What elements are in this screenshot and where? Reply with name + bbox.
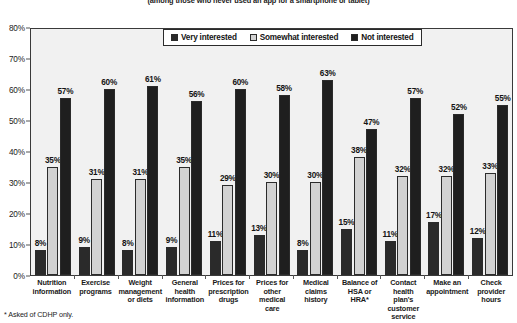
bar[interactable] — [410, 98, 421, 275]
bar-group: 9%31%60% — [75, 29, 119, 275]
bar-slot: 31% — [135, 29, 146, 275]
bar-slot: 52% — [453, 29, 464, 275]
bar-value-label: 57% — [407, 87, 423, 96]
bar[interactable] — [485, 173, 496, 275]
x-axis-label-line: hours — [470, 296, 512, 305]
legend-item[interactable]: Very interested — [171, 33, 237, 42]
legend-label: Very interested — [181, 33, 237, 42]
y-axis: 0%10%20%30%40%50%60%70%80% — [0, 28, 30, 276]
bar[interactable] — [354, 157, 365, 275]
bar-value-label: 31% — [89, 168, 105, 177]
bar-slot: 8% — [35, 29, 46, 275]
bar-value-label: 15% — [339, 218, 355, 227]
bar-value-label: 8% — [35, 239, 46, 248]
legend-item[interactable]: Not interested — [351, 33, 413, 42]
bar[interactable] — [179, 167, 190, 276]
bar-value-label: 35% — [176, 156, 192, 165]
bar[interactable] — [47, 167, 58, 276]
bar-slot: 13% — [254, 29, 265, 275]
legend-label: Not interested — [361, 33, 413, 42]
bar[interactable] — [235, 89, 246, 275]
bar-value-label: 47% — [364, 118, 380, 127]
bar-value-label: 31% — [132, 168, 148, 177]
bar-slot: 9% — [166, 29, 177, 275]
bar[interactable] — [191, 101, 202, 275]
bar[interactable] — [60, 98, 71, 275]
bar-value-label: 55% — [495, 94, 511, 103]
bar[interactable] — [135, 179, 146, 275]
bar[interactable] — [166, 247, 177, 275]
x-axis-label-line: appointment — [426, 288, 468, 297]
bar-value-label: 32% — [395, 165, 411, 174]
x-axis-labels: NutritioninformationExerciseprogramsWeig… — [30, 279, 513, 322]
bar[interactable] — [91, 179, 102, 275]
bar-slot: 8% — [122, 29, 133, 275]
x-axis-label-line: information — [31, 288, 73, 297]
bar[interactable] — [254, 235, 265, 275]
bar[interactable] — [210, 241, 221, 275]
bar-value-label: 60% — [101, 78, 117, 87]
bar[interactable] — [397, 176, 408, 275]
bar-group: 11%32%57% — [381, 29, 425, 275]
bar-value-label: 17% — [426, 211, 442, 220]
bar-value-label: 8% — [297, 239, 308, 248]
y-tick-label: 10% — [9, 241, 25, 250]
legend-item[interactable]: Somewhat interested — [250, 33, 339, 42]
bar-slot: 57% — [410, 29, 421, 275]
bar-value-label: 32% — [439, 165, 455, 174]
x-axis-label-line: information — [164, 296, 206, 305]
x-axis-label-line: health plan's — [382, 288, 424, 305]
bar-slot: 12% — [472, 29, 483, 275]
bar[interactable] — [472, 238, 483, 275]
bar[interactable] — [385, 241, 396, 275]
bar[interactable] — [35, 250, 46, 275]
bar[interactable] — [266, 182, 277, 275]
bar-group: 8%31%61% — [118, 29, 162, 275]
bar-slot: 60% — [104, 29, 115, 275]
bar-value-label: 11% — [208, 230, 223, 239]
x-axis-label: Weightmanagementor diets — [117, 279, 163, 322]
bar[interactable] — [122, 250, 133, 275]
y-tick-label: 60% — [9, 86, 25, 95]
bar[interactable] — [310, 182, 321, 275]
bar[interactable] — [453, 114, 464, 275]
chart-subtitle: (among those who never used an app for a… — [0, 0, 517, 5]
bar-slot: 17% — [428, 29, 439, 275]
bar-value-label: 8% — [122, 239, 133, 248]
y-tick-label: 40% — [9, 148, 25, 157]
chart-container: (among those who never used an app for a… — [0, 0, 517, 323]
bar-slot: 32% — [441, 29, 452, 275]
bar-slot: 11% — [210, 29, 221, 275]
bar-value-label: 30% — [264, 171, 280, 180]
bar[interactable] — [441, 176, 452, 275]
bar[interactable] — [497, 105, 508, 276]
bar[interactable] — [428, 222, 439, 275]
bar-slot: 61% — [147, 29, 158, 275]
bar[interactable] — [79, 247, 90, 275]
bar-group: 13%30%58% — [250, 29, 294, 275]
bar[interactable] — [222, 185, 233, 275]
bar-value-label: 56% — [189, 90, 205, 99]
x-axis-label: Balance ofHSA orHRA* — [338, 279, 382, 322]
x-axis-label-line: or diets — [118, 296, 162, 305]
bar-value-label: 61% — [145, 75, 161, 84]
bar-slot: 60% — [235, 29, 246, 275]
x-axis-label-line: drugs — [208, 296, 250, 305]
bar[interactable] — [279, 95, 290, 275]
bar[interactable] — [147, 86, 158, 275]
bar-group: 8%35%57% — [31, 29, 75, 275]
bar[interactable] — [322, 80, 333, 275]
bar-slot: 11% — [385, 29, 396, 275]
bar-slot: 31% — [91, 29, 102, 275]
bar-slot: 30% — [266, 29, 277, 275]
plot-area: 8%35%57%9%31%60%8%31%61%9%35%56%11%29%60… — [30, 28, 513, 276]
x-axis-label: Prices forothermedical care — [250, 279, 294, 322]
x-axis-label-line: HRA* — [339, 296, 381, 305]
x-axis-label: Contacthealth plan'scustomerservice — [381, 279, 425, 322]
bar-group: 8%30%63% — [293, 29, 337, 275]
bar[interactable] — [297, 250, 308, 275]
bar-slot: 8% — [297, 29, 308, 275]
bar[interactable] — [341, 229, 352, 276]
bar[interactable] — [366, 129, 377, 275]
bar[interactable] — [104, 89, 115, 275]
